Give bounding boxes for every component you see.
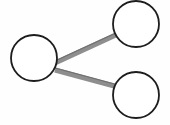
node-top-right[interactable] bbox=[113, 1, 159, 47]
node-left[interactable] bbox=[11, 35, 57, 81]
graph-canvas bbox=[0, 0, 170, 125]
edge-layer bbox=[55, 32, 118, 87]
edge-left-to-top-right-highlight bbox=[55, 32, 118, 61]
node-bottom-right[interactable] bbox=[113, 72, 159, 118]
graph-svg bbox=[0, 0, 170, 125]
edge-left-to-bottom-right[interactable] bbox=[55, 70, 118, 87]
edge-left-to-top-right[interactable] bbox=[55, 34, 118, 63]
node-layer bbox=[11, 1, 159, 118]
edge-left-to-bottom-right-highlight bbox=[55, 68, 118, 85]
